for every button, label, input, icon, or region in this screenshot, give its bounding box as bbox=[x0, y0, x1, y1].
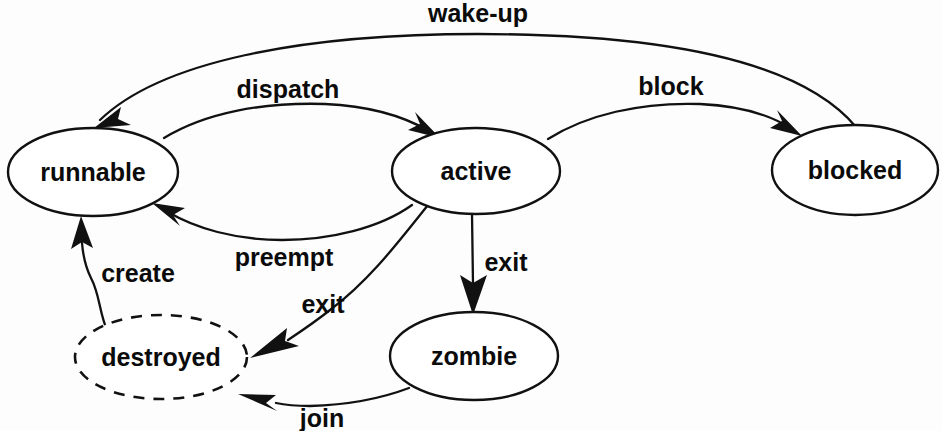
node-runnable[interactable]: runnable bbox=[8, 128, 178, 216]
edge-label-wake-up: wake-up bbox=[427, 0, 528, 27]
thread-state-diagram: wake-up dispatch block preempt create bbox=[0, 0, 942, 431]
edge-label-exit-zombie: exit bbox=[484, 248, 528, 276]
edge-join: join bbox=[238, 388, 409, 431]
edge-label-preempt: preempt bbox=[235, 243, 334, 271]
edge-label-exit-destroyed: exit bbox=[301, 290, 345, 318]
edge-block-path bbox=[548, 104, 790, 139]
node-destroyed-label: destroyed bbox=[101, 343, 220, 371]
edge-label-create: create bbox=[101, 259, 175, 287]
edge-exit-zombie: exit bbox=[460, 214, 528, 315]
node-blocked-label: blocked bbox=[808, 156, 902, 184]
edge-exit-zombie-path bbox=[472, 214, 473, 284]
edge-preempt-arrowhead bbox=[152, 203, 185, 226]
node-runnable-label: runnable bbox=[40, 158, 146, 186]
edge-block: block bbox=[548, 72, 802, 139]
edge-dispatch: dispatch bbox=[164, 75, 440, 138]
node-blocked[interactable]: blocked bbox=[772, 125, 938, 215]
edge-wake-up-path bbox=[100, 34, 856, 127]
edge-block-arrowhead bbox=[770, 110, 802, 136]
edge-label-block: block bbox=[638, 72, 703, 100]
node-zombie[interactable]: zombie bbox=[390, 312, 558, 400]
node-destroyed[interactable]: destroyed bbox=[75, 315, 247, 399]
edge-label-join: join bbox=[299, 404, 344, 431]
edge-exit-destroyed-path bbox=[288, 205, 428, 340]
edge-join-arrowhead bbox=[238, 394, 277, 411]
edge-preempt: preempt bbox=[152, 203, 412, 271]
edge-exit-destroyed-arrowhead bbox=[250, 328, 299, 358]
edge-label-dispatch: dispatch bbox=[237, 75, 340, 103]
edge-dispatch-path bbox=[164, 104, 429, 138]
edge-create: create bbox=[71, 216, 175, 330]
node-active-label: active bbox=[441, 157, 512, 185]
edge-preempt-path bbox=[168, 205, 412, 240]
node-active[interactable]: active bbox=[392, 128, 560, 214]
node-zombie-label: zombie bbox=[431, 342, 517, 370]
state-diagram-canvas: wake-up dispatch block preempt create bbox=[0, 0, 942, 431]
